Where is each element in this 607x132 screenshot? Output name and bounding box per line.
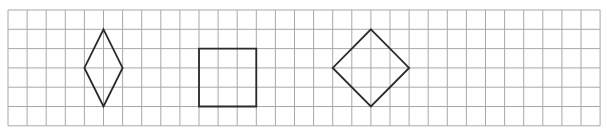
square-shape — [199, 49, 256, 107]
grid-figure — [0, 0, 607, 132]
grid-lines — [8, 10, 600, 126]
